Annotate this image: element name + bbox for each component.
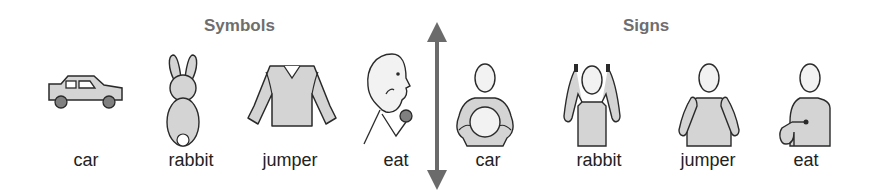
car-sign-icon [453, 58, 517, 148]
signs-heading: Signs [623, 16, 669, 36]
symbol-label-jumper: jumper [245, 150, 335, 171]
symbols-heading: Symbols [204, 16, 275, 36]
car-symbol-icon [46, 74, 126, 114]
sign-label-jumper: jumper [663, 150, 753, 171]
sign-label-rabbit: rabbit [554, 150, 644, 171]
symbol-label-rabbit: rabbit [146, 150, 236, 171]
symbol-label-eat: eat [351, 150, 441, 171]
rabbit-sign-icon [562, 58, 622, 148]
sign-label-eat: eat [761, 150, 851, 171]
rabbit-symbol-icon [162, 52, 206, 148]
eat-sign-icon [778, 58, 838, 148]
jumper-symbol-icon [246, 64, 338, 130]
jumper-sign-icon [677, 58, 741, 148]
eat-symbol-icon [362, 52, 418, 148]
sign-label-car: car [443, 150, 533, 171]
symbol-label-car: car [41, 150, 131, 171]
